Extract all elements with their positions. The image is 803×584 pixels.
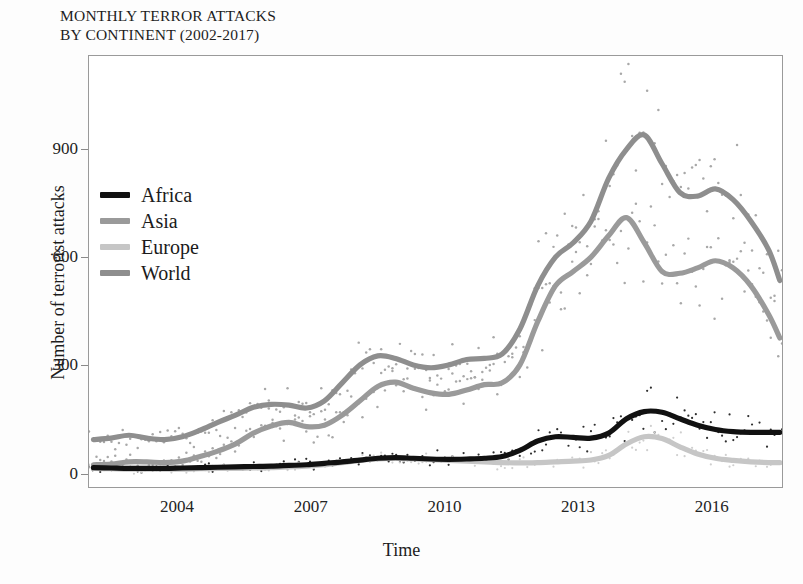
legend-label: World <box>141 263 191 283</box>
legend-swatch-icon <box>100 192 130 198</box>
legend-label: Africa <box>141 185 192 205</box>
legend-item-asia[interactable]: Asia <box>100 208 199 234</box>
y-tick-mark <box>81 149 88 150</box>
legend-swatch-icon <box>100 218 130 224</box>
x-tick-label: 2007 <box>271 497 351 517</box>
legend-item-europe[interactable]: Europe <box>100 234 199 260</box>
figure: MONTHLY TERROR ATTACKS BY CONTINENT (200… <box>0 0 803 584</box>
legend-swatch-icon <box>100 270 130 276</box>
legend-label: Europe <box>141 237 199 257</box>
y-axis-label: Number of terrorist attacks <box>48 133 69 433</box>
y-tick-label: 0 <box>24 464 78 484</box>
legend: AfricaAsiaEuropeWorld <box>100 182 199 286</box>
y-tick-label: 900 <box>24 139 78 159</box>
y-tick-label: 600 <box>24 247 78 267</box>
legend-swatch-icon <box>100 244 130 250</box>
y-tick-mark <box>81 257 88 258</box>
legend-item-africa[interactable]: Africa <box>100 182 199 208</box>
x-tick-label: 2010 <box>404 497 484 517</box>
legend-item-world[interactable]: World <box>100 260 199 286</box>
x-tick-label: 2016 <box>672 497 752 517</box>
x-axis-label: Time <box>0 540 803 561</box>
trend-line-europe <box>93 436 779 469</box>
y-tick-mark <box>81 365 88 366</box>
x-tick-label: 2004 <box>137 497 217 517</box>
y-tick-label: 300 <box>24 355 78 375</box>
legend-label: Asia <box>141 211 178 231</box>
chart-title: MONTHLY TERROR ATTACKS BY CONTINENT (200… <box>60 6 276 44</box>
x-tick-label: 2013 <box>538 497 618 517</box>
y-tick-mark <box>81 474 88 475</box>
